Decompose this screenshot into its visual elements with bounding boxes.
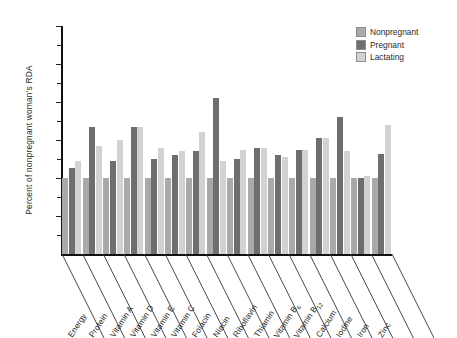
x-axis-label: Iron	[356, 322, 371, 338]
bar	[110, 161, 116, 254]
bar-group	[330, 26, 351, 254]
legend-label: Lactating	[370, 52, 404, 62]
floor-divider-line	[165, 254, 207, 338]
bar	[193, 151, 199, 254]
floor-divider-line	[310, 254, 352, 338]
bar	[145, 178, 151, 254]
plot-area: 50100150200250300	[62, 26, 392, 254]
legend-swatch	[356, 40, 366, 50]
x-axis-label: Iodine	[335, 315, 355, 338]
bar	[234, 159, 240, 254]
bar-group	[103, 26, 124, 254]
bar	[364, 176, 370, 254]
bar	[96, 146, 102, 254]
bar	[240, 150, 246, 254]
x-axis-label: Vitamin D	[129, 304, 156, 338]
bar	[220, 161, 226, 254]
bar	[186, 178, 192, 254]
bar	[199, 132, 205, 254]
floor-divider-line	[330, 254, 372, 338]
bar	[172, 155, 178, 254]
bar	[227, 178, 233, 254]
bar-group	[206, 26, 227, 254]
bar-group	[186, 26, 207, 254]
x-axis-label: Vitamin B12	[292, 299, 324, 338]
x-axis-label: Folacin	[191, 311, 213, 338]
x-axis-label: Zinc	[376, 321, 392, 338]
floor-divider-line	[62, 254, 104, 338]
x-axis-label: Calcium	[314, 309, 338, 338]
bar	[89, 127, 95, 254]
x-axis-label-subscript: 12	[316, 302, 325, 311]
bar	[165, 178, 171, 254]
bar	[282, 157, 288, 254]
legend-item: Pregnant	[356, 40, 456, 50]
bar-chart: Percent of nonpregnant woman's RDA 50100…	[0, 0, 457, 338]
bar-group	[268, 26, 289, 254]
bar	[254, 148, 260, 254]
floor-divider-line	[392, 254, 434, 338]
bar	[358, 178, 364, 254]
x-axis-label: Thiamin	[252, 309, 276, 338]
bar	[213, 98, 219, 254]
bar-group	[62, 26, 83, 254]
legend-label: Nonpregnant	[370, 27, 418, 37]
bar	[207, 178, 213, 254]
x-axis-label: Riboflavin	[232, 303, 260, 338]
bar	[268, 178, 274, 254]
legend-item: Nonpregnant	[356, 27, 456, 37]
floor-divider-line	[103, 254, 145, 338]
x-axis-label-subscript: 6	[295, 304, 302, 310]
bar	[103, 178, 109, 254]
bar	[179, 151, 185, 254]
legend-swatch	[356, 27, 366, 37]
floor-divider-line	[289, 254, 331, 338]
bar	[75, 161, 81, 254]
bar	[158, 148, 164, 254]
x-axis-label: Vitamin C	[170, 304, 197, 338]
bar	[302, 150, 308, 254]
chart-floor-3d	[62, 254, 434, 338]
bar	[372, 178, 378, 254]
x-axis-label: Energy	[67, 312, 89, 338]
bar	[344, 151, 350, 254]
x-axis-line	[61, 254, 392, 256]
floor-divider-line	[145, 254, 187, 338]
bar	[137, 127, 143, 254]
floor-divider-line	[248, 254, 290, 338]
bar	[316, 138, 322, 254]
bar-group	[248, 26, 269, 254]
bar	[337, 117, 343, 254]
bar	[151, 159, 157, 254]
bar	[124, 178, 130, 254]
bar	[83, 178, 89, 254]
x-axis-label: Vitamin E	[149, 304, 176, 338]
bar	[385, 125, 391, 254]
floor-divider-line	[124, 254, 166, 338]
bar	[62, 178, 68, 254]
x-axis-label: Protein	[87, 312, 109, 338]
bar	[275, 155, 281, 254]
floor-divider-line	[206, 254, 248, 338]
floor-divider-line	[351, 254, 393, 338]
bar	[323, 138, 329, 254]
bar	[351, 178, 357, 254]
floor-divider-line	[268, 254, 310, 338]
bar	[248, 178, 254, 254]
x-axis-label: Niacin	[211, 315, 231, 338]
floor-lines-svg	[62, 254, 434, 338]
floor-divider-line	[83, 254, 125, 338]
legend-label: Pregnant	[370, 40, 404, 50]
x-axis-label: Vitamin A	[108, 304, 135, 338]
bar	[261, 148, 267, 254]
floor-divider-line	[371, 254, 413, 338]
bar-group	[289, 26, 310, 254]
bar	[69, 168, 75, 254]
bar-group	[165, 26, 186, 254]
bar-group	[83, 26, 104, 254]
floor-divider-line	[227, 254, 269, 338]
bar	[131, 127, 137, 254]
bar	[310, 178, 316, 254]
bar	[117, 140, 123, 254]
bar-groups	[62, 26, 392, 254]
